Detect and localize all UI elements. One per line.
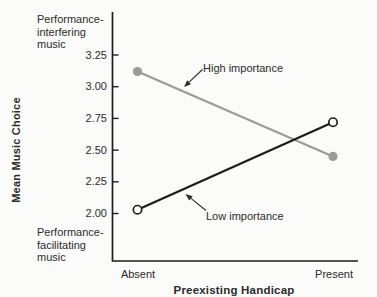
y-axis-bottom-end-label: Performance- facilitating music xyxy=(37,226,104,264)
series-label-high-importance: High importance xyxy=(203,62,283,74)
series-line-high-importance xyxy=(138,71,334,156)
marker-filled-circle-high-importance xyxy=(328,152,337,161)
y-tick-label: 2.00 xyxy=(62,207,107,220)
axis-spines xyxy=(113,12,359,261)
x-axis-title: Preexisting Handicap xyxy=(174,284,295,296)
music-choice-line-chart: Performance- interfering music Mean Musi… xyxy=(0,0,377,297)
series-line-low-importance xyxy=(138,122,334,209)
annotation-arrow-high-importance xyxy=(189,70,202,83)
y-axis-title: Mean Music Choice xyxy=(10,97,22,202)
y-tick-label: 3.25 xyxy=(62,49,107,62)
y-axis-top-end-label: Performance- interfering music xyxy=(37,13,104,51)
x-category-present: Present xyxy=(315,268,353,280)
marker-open-circle-low-importance xyxy=(133,205,141,213)
y-tick-label: 2.75 xyxy=(62,112,107,125)
x-category-absent: Absent xyxy=(121,268,155,280)
y-tick-label: 3.00 xyxy=(62,80,107,93)
y-tick-label: 2.25 xyxy=(62,175,107,188)
marker-open-circle-low-importance xyxy=(329,118,337,126)
annotation-arrow-low-importance xyxy=(191,198,206,210)
series-label-low-importance: Low importance xyxy=(206,210,284,222)
marker-filled-circle-high-importance xyxy=(133,67,142,76)
y-tick-label: 2.50 xyxy=(62,144,107,157)
